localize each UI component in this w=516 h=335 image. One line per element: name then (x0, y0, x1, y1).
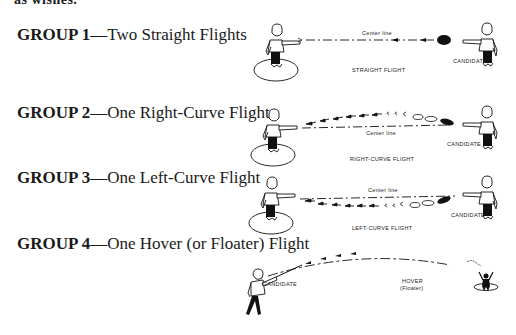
flight-caption: STRAIGHT FLIGHT (352, 67, 406, 73)
candidate-label: CANDIDATE (451, 212, 485, 218)
group-2-figure: Center line RIGHT-CURVE FLIGHT CANDIDATE (251, 106, 497, 166)
candidate-label: CANDIDATE (453, 58, 487, 64)
candidate-figure-icon (246, 265, 302, 315)
catcher-figure-icon (263, 109, 297, 152)
center-line-label: Center line (362, 30, 392, 36)
center-line-label: Center line (368, 187, 398, 193)
catcher-figure-icon (261, 177, 295, 220)
catcher-figure-icon (479, 272, 493, 291)
catcher-figure-icon (266, 24, 300, 67)
flight-caption: RIGHT-CURVE FLIGHT (350, 156, 415, 162)
floater-caption: (Floater) (400, 285, 423, 291)
group-3-figure: Center line LEFT-CURVE FLIGHT CANDIDATE (249, 176, 497, 234)
hover-flight-path (268, 259, 450, 276)
flight-caption: LEFT-CURVE FLIGHT (352, 225, 413, 231)
center-line-label: Center line (366, 130, 396, 136)
center-line (302, 125, 450, 128)
disc-icon (437, 35, 451, 45)
candidate-label: CANDIDATE (263, 281, 297, 287)
group-4-figure: CANDIDATE HOVER (Floater) (246, 252, 498, 315)
center-line (300, 196, 455, 199)
hover-caption: HOVER (402, 278, 423, 284)
candidate-label: CANDIDATE (447, 141, 481, 147)
group-1-figure: Center line STRAIGHT FLIGHT CANDIDATE (254, 23, 497, 81)
